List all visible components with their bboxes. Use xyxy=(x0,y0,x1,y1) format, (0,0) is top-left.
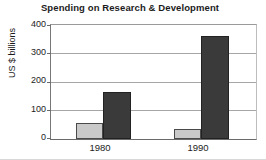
y-tick-300 xyxy=(47,53,51,54)
y-tick-label-0: 0 xyxy=(22,133,46,142)
bar-1990-light xyxy=(174,129,201,139)
y-tick-100 xyxy=(47,110,51,111)
x-tick-label-1980: 1980 xyxy=(70,142,130,153)
bar-1990-dark xyxy=(201,36,229,139)
y-tick-label-400: 400 xyxy=(22,20,46,29)
bar-1980-dark xyxy=(103,92,131,139)
y-tick-label-200: 200 xyxy=(22,76,46,85)
chart-title: Spending on Research & Development xyxy=(0,2,260,13)
y-tick-label-100: 100 xyxy=(22,105,46,114)
y-tick-label-300: 300 xyxy=(22,48,46,57)
y-axis-title: US $ billions xyxy=(7,17,17,89)
x-tick-label-1990: 1990 xyxy=(168,142,228,153)
y-tick-0 xyxy=(47,138,51,139)
bar-1980-light xyxy=(76,123,103,139)
y-tick-400 xyxy=(47,25,51,26)
plot-area xyxy=(50,24,257,140)
y-tick-200 xyxy=(47,82,51,83)
chart-figure: Spending on Research & Development US $ … xyxy=(0,0,266,160)
